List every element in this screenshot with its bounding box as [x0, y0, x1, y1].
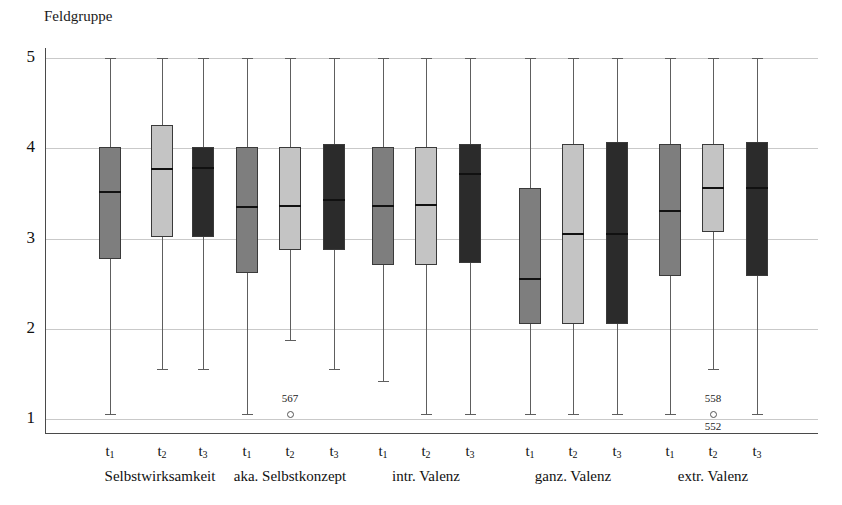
whisker-cap-upper — [285, 58, 296, 59]
boxplot-chart: Feldgruppe 12345t1t2t3t1t2t3t1t2t3t1t2t3… — [0, 0, 842, 505]
whisker-upper — [203, 58, 204, 147]
box-t1[interactable] — [519, 188, 541, 324]
whisker-upper — [617, 58, 618, 142]
x-axis-tick-label: t3 — [597, 443, 637, 460]
box-t3[interactable] — [323, 144, 345, 250]
whisker-cap-lower — [665, 414, 676, 415]
x-axis-tick-label: t1 — [90, 443, 130, 460]
box-t1[interactable] — [236, 147, 258, 272]
whisker-cap-upper — [329, 58, 340, 59]
median-line — [519, 278, 541, 280]
whisker-cap-upper — [198, 58, 209, 59]
box-t2[interactable] — [279, 147, 301, 250]
whisker-cap-upper — [752, 58, 763, 59]
whisker-lower — [470, 263, 471, 415]
median-line — [562, 233, 584, 235]
whisker-upper — [670, 58, 671, 144]
whisker-cap-upper — [242, 58, 253, 59]
x-axis-tick-label: t2 — [142, 443, 182, 460]
box-t1[interactable] — [99, 147, 121, 259]
whisker-cap-upper — [708, 58, 719, 59]
whisker-cap-upper — [378, 58, 389, 59]
whisker-cap-lower — [421, 414, 432, 415]
whisker-cap-upper — [525, 58, 536, 59]
whisker-lower — [530, 324, 531, 414]
x-axis-line — [45, 433, 818, 434]
whisker-upper — [247, 58, 248, 147]
median-line — [459, 173, 481, 175]
x-axis-tick-label: t2 — [270, 443, 310, 460]
whisker-upper — [573, 58, 574, 144]
whisker-cap-lower — [465, 414, 476, 415]
whisker-lower — [757, 276, 758, 414]
whisker-cap-lower — [285, 340, 296, 341]
whisker-lower — [203, 237, 204, 370]
whisker-cap-lower — [242, 414, 253, 415]
whisker-lower — [670, 276, 671, 414]
whisker-cap-lower — [378, 381, 389, 382]
whisker-upper — [757, 58, 758, 142]
whisker-upper — [290, 58, 291, 147]
box-t3[interactable] — [192, 147, 214, 236]
whisker-cap-lower — [329, 369, 340, 370]
whisker-cap-upper — [568, 58, 579, 59]
y-axis-tick-label: 4 — [9, 137, 35, 157]
median-line — [192, 167, 214, 169]
whisker-cap-lower — [612, 414, 623, 415]
outlier-label: 558 — [693, 392, 733, 404]
whisker-cap-upper — [105, 58, 116, 59]
whisker-cap-lower — [105, 414, 116, 415]
whisker-cap-upper — [612, 58, 623, 59]
whisker-lower — [426, 265, 427, 415]
x-axis-tick-label: t2 — [553, 443, 593, 460]
x-axis-tick-label: t3 — [314, 443, 354, 460]
median-line — [279, 205, 301, 207]
whisker-cap-upper — [157, 58, 168, 59]
whisker-upper — [110, 58, 111, 147]
whisker-upper — [383, 58, 384, 147]
median-line — [702, 187, 724, 189]
gridline-y-2 — [45, 329, 818, 330]
x-axis-tick-label: t3 — [183, 443, 223, 460]
whisker-upper — [530, 58, 531, 188]
group-label: extr. Valenz — [613, 468, 813, 485]
box-t2[interactable] — [151, 125, 173, 237]
box-t3[interactable] — [459, 144, 481, 263]
whisker-cap-upper — [665, 58, 676, 59]
median-line — [415, 204, 437, 206]
whisker-cap-lower — [157, 369, 168, 370]
y-axis-tick-label: 2 — [9, 318, 35, 338]
whisker-lower — [617, 324, 618, 414]
x-axis-tick-label: t1 — [510, 443, 550, 460]
x-axis-tick-label: t1 — [363, 443, 403, 460]
whisker-cap-lower — [752, 414, 763, 415]
median-line — [746, 187, 768, 189]
box-t3[interactable] — [746, 142, 768, 276]
whisker-lower — [110, 259, 111, 414]
whisker-lower — [383, 265, 384, 381]
median-line — [99, 191, 121, 193]
whisker-lower — [713, 232, 714, 369]
whisker-lower — [334, 250, 335, 369]
outlier-marker[interactable] — [710, 411, 717, 418]
whisker-cap-upper — [421, 58, 432, 59]
whisker-lower — [573, 324, 574, 414]
y-axis-tick-label: 5 — [9, 47, 35, 67]
outlier-marker[interactable] — [287, 411, 294, 418]
x-axis-tick-label: t2 — [406, 443, 446, 460]
x-axis-tick-label: t3 — [450, 443, 490, 460]
y-axis-line — [45, 48, 46, 433]
whisker-cap-upper — [465, 58, 476, 59]
y-axis-tick-label: 3 — [9, 228, 35, 248]
y-axis-tick-label: 1 — [9, 408, 35, 428]
x-axis-tick-label: t2 — [693, 443, 733, 460]
whisker-upper — [470, 58, 471, 144]
whisker-upper — [713, 58, 714, 144]
whisker-cap-lower — [708, 369, 719, 370]
whisker-lower — [247, 273, 248, 415]
whisker-upper — [426, 58, 427, 147]
whisker-lower — [290, 250, 291, 339]
whisker-lower — [162, 237, 163, 370]
median-line — [323, 199, 345, 201]
whisker-cap-lower — [525, 414, 536, 415]
